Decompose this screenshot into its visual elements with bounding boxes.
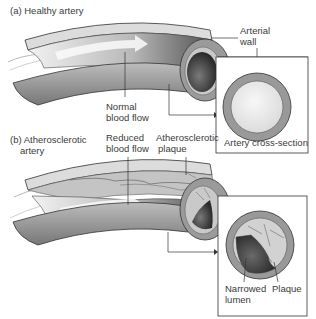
arterial-wall-label-1: Arterial [240, 25, 270, 36]
normal-flow-label-1: Normal [106, 101, 137, 112]
normal-flow-label-2: blood flow [106, 112, 149, 123]
narrowed-lumen-label-2: lumen [225, 294, 251, 305]
reduced-flow-label-1: Reduced [106, 132, 144, 143]
reduced-flow-label-2: blood flow [106, 143, 149, 154]
inset-plaque-label: Plaque [272, 283, 302, 294]
diagram-canvas [0, 0, 316, 319]
narrowed-lumen-label-1: Narrowed [225, 283, 266, 294]
panel-b-title-1: (b) Atherosclerotic [10, 134, 87, 145]
panel-a-title: (a) Healthy artery [10, 5, 83, 16]
plaque-label-1: Atherosclerotic [156, 132, 219, 143]
plaque-label-2: plaque [158, 143, 187, 154]
panel-b-title-2: artery [20, 145, 44, 156]
atherosclerotic-artery-illustration [10, 157, 230, 255]
arterial-wall-label-2: wall [240, 36, 256, 47]
cross-section-caption: Artery cross-section [224, 137, 308, 148]
